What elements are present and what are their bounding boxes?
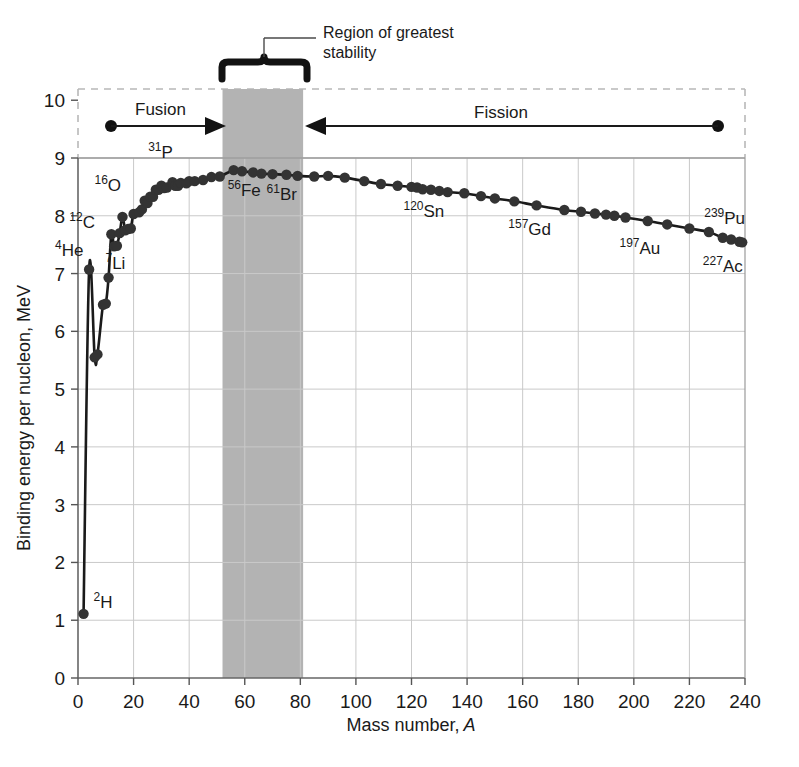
data-point (704, 227, 714, 237)
data-point (281, 170, 291, 180)
x-tick-label: 20 (123, 691, 144, 712)
data-point (590, 208, 600, 218)
isotope-symbol: C (83, 213, 95, 232)
isotope-symbol: O (108, 176, 121, 195)
fission-label: Fission (474, 103, 528, 122)
x-axis-title-text: Mass number, (346, 715, 459, 735)
data-point (78, 609, 88, 619)
data-point (662, 219, 672, 229)
isotope-symbol: Br (280, 185, 297, 204)
isotope-mass-number: 12 (69, 210, 83, 224)
y-tick-label: 7 (54, 264, 65, 285)
isotope-symbol: Ac (723, 257, 743, 276)
x-tick-label: 140 (451, 691, 483, 712)
data-point (292, 171, 302, 181)
data-point (376, 179, 386, 189)
data-point (576, 207, 586, 217)
isotope-symbol: Sn (424, 202, 445, 221)
isotope-symbol: Li (112, 254, 125, 273)
data-point (126, 223, 136, 233)
x-tick-label: 200 (618, 691, 650, 712)
data-point (101, 298, 111, 308)
data-point (84, 264, 94, 274)
isotope-symbol: H (100, 593, 112, 612)
x-axis-title-italic: A (463, 715, 476, 735)
data-point (359, 176, 369, 186)
isotope-mass-number: 227 (703, 254, 723, 268)
chart-canvas: 020406080100120140160180200220240 012345… (0, 0, 799, 767)
x-axis-title: Mass number,A (346, 715, 475, 735)
isotope-mass-number: 197 (619, 236, 639, 250)
data-point (103, 272, 113, 282)
x-tick-label: 100 (340, 691, 372, 712)
isotope-symbol: P (162, 143, 173, 162)
data-point (442, 187, 452, 197)
data-point (215, 171, 225, 181)
data-point (392, 181, 402, 191)
y-tick-label: 1 (54, 610, 65, 631)
data-point (643, 216, 653, 226)
y-tick-label: 0 (54, 668, 65, 689)
y-tick-label: 6 (54, 321, 65, 342)
isotope-mass-number: 61 (267, 182, 281, 196)
data-point (459, 188, 469, 198)
isotope-symbol: Au (640, 239, 661, 258)
isotope-mass-number: 120 (404, 199, 424, 213)
data-point (509, 196, 519, 206)
data-point (323, 171, 333, 181)
y-tick-label: 4 (54, 437, 65, 458)
y-axis-title: Binding energy per nucleon, MeV (14, 285, 34, 551)
x-tick-label: 240 (729, 691, 761, 712)
x-tick-label: 220 (674, 691, 706, 712)
x-tick-label: 60 (234, 691, 255, 712)
y-tick-label: 5 (54, 379, 65, 400)
x-tick-label: 80 (290, 691, 311, 712)
y-tick-label: 2 (54, 552, 65, 573)
data-point (609, 211, 619, 221)
isotope-symbol: Pu (724, 209, 745, 228)
y-tick-label: 10 (44, 90, 65, 111)
data-point (256, 168, 266, 178)
x-tick-label: 40 (179, 691, 200, 712)
isotope-mass-number: 31 (148, 140, 162, 154)
isotope-mass-number: 56 (228, 178, 242, 192)
data-point (684, 223, 694, 233)
y-tick-label: 3 (54, 495, 65, 516)
data-point (531, 200, 541, 210)
data-point (476, 191, 486, 201)
isotope-symbol: He (62, 241, 84, 260)
data-point (92, 349, 102, 359)
isotope-mass-number: 157 (508, 217, 528, 231)
data-point (340, 172, 350, 182)
isotope-mass-number: 16 (94, 173, 108, 187)
binding-energy-chart: 020406080100120140160180200220240 012345… (0, 0, 799, 767)
region-callout-line2: stability (323, 44, 376, 61)
fusion-label: Fusion (135, 100, 186, 119)
y-tick-label: 9 (54, 148, 65, 169)
data-point (559, 205, 569, 215)
data-point (237, 166, 247, 176)
data-point (620, 212, 630, 222)
region-callout-line1: Region of greatest (323, 24, 454, 41)
isotope-symbol: Fe (241, 181, 261, 200)
data-point (490, 193, 500, 203)
data-point (112, 241, 122, 251)
data-point (309, 171, 319, 181)
x-tick-label: 120 (396, 691, 428, 712)
isotope-mass-number: 239 (704, 206, 724, 220)
x-tick-label: 0 (73, 691, 84, 712)
data-point (267, 169, 277, 179)
isotope-symbol: Gd (528, 220, 551, 239)
x-tick-label: 180 (562, 691, 594, 712)
data-point (737, 237, 747, 247)
x-tick-label: 160 (507, 691, 539, 712)
chart-background (0, 0, 799, 767)
data-point (117, 212, 127, 222)
y-tick-label: 8 (54, 206, 65, 227)
